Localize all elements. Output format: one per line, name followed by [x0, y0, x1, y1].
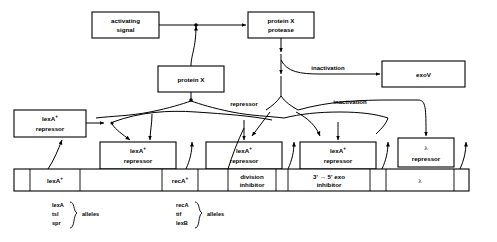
box-lexa-repressor-3[interactable]: lexA+ repressor — [300, 142, 376, 169]
allele-reca-item-1: tif — [176, 211, 181, 217]
allele-lexa-brace — [70, 202, 77, 228]
edge-protease-fan-left — [266, 96, 281, 110]
allele-lexa-label: alleles — [82, 211, 99, 217]
edge-down-to-lexa-1b — [150, 114, 152, 140]
box-lambda-repressor[interactable]: λ repressor — [398, 138, 454, 167]
lexa-repressor-1-label-line2: repressor — [124, 157, 153, 164]
protein-x-protease-label-line1: protein X — [268, 17, 296, 24]
box-exov[interactable]: exoV — [382, 61, 465, 87]
edge-gene-division-up — [288, 142, 294, 169]
gene-label-exo-line2: inhibitor — [317, 181, 342, 188]
gene-label-division-line2: inhibitor — [240, 181, 265, 188]
box-lexa-repressor-2[interactable]: lexA+ repressor — [206, 142, 282, 169]
allele-lexa-item-0: lexA — [52, 202, 64, 208]
gene-label-exo-line1: 3' → 5' exo — [313, 173, 345, 180]
edge-gene-lexa-to-repressor-left — [48, 140, 62, 169]
edge-to-lexa-repressor-1 — [112, 124, 130, 140]
allele-reca-label: alleles — [207, 211, 224, 217]
label-repressor: repressor — [230, 101, 258, 107]
allele-lexa-item-2: spr — [52, 220, 62, 226]
activating-signal-label-line1: activating — [111, 17, 140, 24]
allele-group-lexa: lexA tsl spr alleles — [52, 202, 99, 228]
box-lexa-repressor-left[interactable]: lexA+ repressor — [14, 110, 86, 137]
allele-group-reca: recA tif lexB alleles — [176, 202, 224, 228]
allele-reca-brace — [195, 202, 202, 228]
lexa-repressor-3-label-line2: repressor — [324, 157, 353, 164]
edge-gene-reca-up — [186, 142, 192, 169]
allele-lexa-item-1: tsl — [52, 211, 59, 217]
edge-fan-to-lexa-3 — [296, 112, 320, 136]
protein-x-protease-label-line2: protease — [268, 26, 294, 33]
box-lexa-repressor-1[interactable]: lexA+ repressor — [100, 142, 176, 169]
edge-repressor-spread-arc-right — [284, 112, 388, 118]
allele-reca-item-0: recA — [176, 202, 188, 208]
activating-signal-label-line2: signal — [117, 26, 135, 33]
box-activating-signal[interactable]: activating signal — [92, 12, 159, 38]
edge-repressor-spread-arc — [113, 111, 272, 122]
gene-label-lambda: λ — [418, 177, 422, 185]
diagram-svg: activating signal protein X protease pro… — [0, 0, 497, 242]
edge-protease-fan-right — [281, 96, 298, 110]
lambda-repressor-label-line2: repressor — [412, 155, 441, 162]
protein-x-label: protein X — [178, 76, 206, 83]
gene-label-division-line1: division — [240, 173, 264, 180]
edge-proteinx-to-signal-line — [191, 26, 196, 66]
edge-gene-exo-up — [382, 142, 388, 169]
label-inactivation-exov: inactivation — [311, 65, 345, 71]
lexa-repressor-left-label-line2: repressor — [36, 125, 65, 132]
label-inactivation-lambda: inactivation — [333, 99, 367, 105]
lambda-repressor-label-line1: λ — [424, 144, 428, 152]
box-protein-x[interactable]: protein X — [158, 66, 224, 92]
allele-reca-item-2: lexB — [176, 220, 188, 226]
edge-proteinx-fan-far-left — [96, 101, 191, 118]
box-protein-x-protease[interactable]: protein X protease — [248, 12, 314, 38]
lambda-repressor-rect[interactable] — [398, 138, 454, 167]
lexa-repressor-2-label-line2: repressor — [230, 157, 259, 164]
gene-bar: lexA+ recA+ division inhibitor 3' → 5' e… — [14, 169, 469, 191]
edge-gene-lambda-up — [460, 142, 466, 169]
edge-arc-right-tail — [376, 118, 388, 134]
exov-label: exoV — [416, 71, 432, 78]
diagram-canvas: activating signal protein X protease pro… — [0, 0, 497, 242]
